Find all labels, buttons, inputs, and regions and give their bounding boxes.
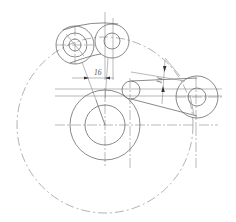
drawing-svg: 16 11 xyxy=(0,0,236,222)
small-roller xyxy=(122,81,140,99)
technical-drawing: 16 11 xyxy=(0,0,236,222)
dimension-11: 11 xyxy=(154,60,166,104)
centerlines xyxy=(55,12,222,168)
top-right-eye xyxy=(95,24,129,58)
guide-line-mid xyxy=(105,58,108,100)
dimension-16-label: 16 xyxy=(94,68,102,77)
dimension-16: 16 xyxy=(72,68,114,80)
top-link-band xyxy=(63,23,118,63)
